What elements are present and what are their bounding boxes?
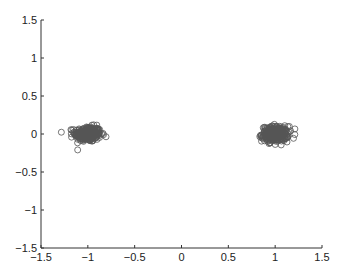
y-axis-ticks: −1.5−1−0.500.511.5 [15, 14, 44, 254]
x-tick-label: 0.5 [221, 251, 236, 263]
x-tick-label: −1 [82, 251, 95, 263]
x-tick-label: 0 [178, 251, 184, 263]
y-tick-label: 0 [31, 128, 37, 140]
cluster-left-points [58, 122, 109, 153]
y-tick-label: −0.5 [15, 166, 37, 178]
y-tick-label: −1.5 [15, 242, 37, 254]
x-tick-label: −0.5 [124, 251, 146, 263]
x-tick-label: 1 [272, 251, 278, 263]
y-tick-label: 0.5 [22, 90, 37, 102]
y-tick-label: 1.5 [22, 14, 37, 26]
cluster-right-points [257, 121, 298, 148]
scatter-points [58, 121, 298, 153]
y-tick-label: 1 [31, 52, 37, 64]
y-tick-label: −1 [24, 204, 37, 216]
x-tick-label: 1.5 [314, 251, 329, 263]
scatter-chart: −1.5−1−0.500.511.5 −1.5−1−0.500.511.5 [0, 0, 345, 274]
